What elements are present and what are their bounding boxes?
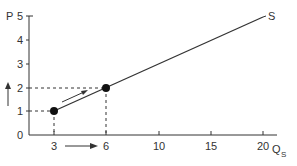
y-tick-0: 0	[17, 129, 23, 141]
point-6-2	[102, 84, 110, 92]
supply-chart: P 5 4 3 2 1 0 3 6 10 15 20 Q S S	[0, 0, 297, 166]
dashed-guides	[29, 88, 106, 135]
y-tick-2: 2	[17, 82, 23, 94]
x-tick-15: 15	[205, 140, 217, 152]
x-ticks	[54, 131, 263, 135]
point-3-1	[50, 107, 58, 115]
x-axis-label: Q	[272, 143, 281, 155]
supply-curve	[54, 17, 263, 111]
x-axis-subscript: S	[281, 150, 286, 159]
y-tick-3: 3	[17, 58, 23, 70]
curve-label: S	[268, 10, 275, 22]
x-tick-6: 6	[103, 140, 109, 152]
x-tick-10: 10	[153, 140, 165, 152]
y-tick-5: 5	[17, 10, 23, 22]
x-tick-3: 3	[51, 140, 57, 152]
x-tick-20: 20	[257, 140, 269, 152]
quantity-arrow-icon	[65, 143, 98, 149]
y-axis-label: P	[6, 10, 13, 22]
y-tick-1: 1	[17, 105, 23, 117]
price-arrow-icon	[5, 82, 11, 106]
movement-arrow-icon	[62, 90, 88, 102]
y-tick-4: 4	[17, 34, 23, 46]
